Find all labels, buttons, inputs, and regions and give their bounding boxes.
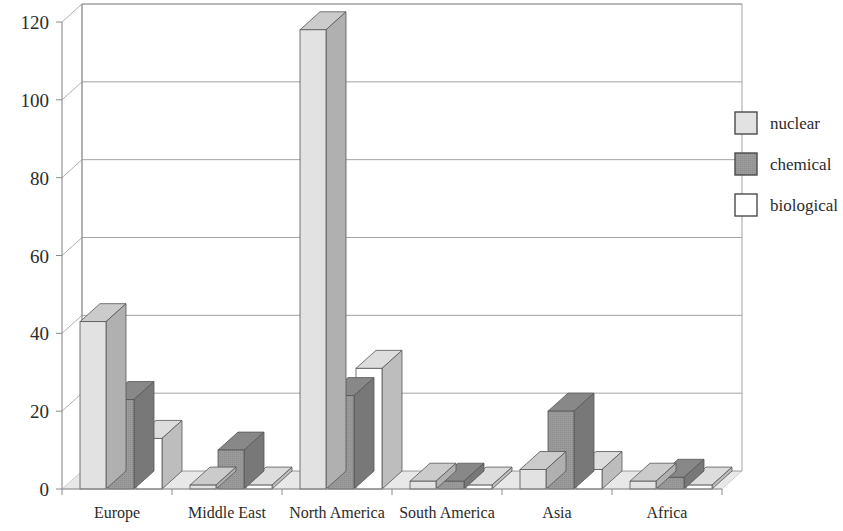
- legend-label-nuclear: nuclear: [770, 114, 820, 133]
- y-axis-tick-label: 100: [21, 90, 50, 111]
- gridline-depth-connector: [62, 82, 82, 100]
- bar-side-face: [106, 304, 126, 489]
- legend-item-nuclear[interactable]: nuclear: [735, 112, 820, 134]
- gridline-depth-connector: [62, 4, 82, 22]
- bar-front-face: [520, 470, 546, 489]
- legend-swatch-nuclear: [735, 112, 757, 134]
- bar-side-face: [354, 378, 374, 489]
- y-axis-tick-label: 20: [30, 401, 49, 422]
- chart-legend: nuclearchemicalbiological: [735, 112, 838, 216]
- bar-side-face: [326, 12, 346, 489]
- x-axis-category-label: Middle East: [188, 504, 266, 521]
- legend-item-biological[interactable]: biological: [735, 194, 838, 216]
- bar-side-face: [382, 350, 402, 489]
- bar-front-face: [190, 485, 216, 489]
- gridline-depth-connector: [62, 393, 82, 411]
- gridline-depth-connector: [62, 238, 82, 256]
- x-axis-category-label: Europe: [94, 504, 140, 522]
- y-axis-tick-labels: 020406080100120: [21, 12, 50, 500]
- bar-europe-nuclear[interactable]: [80, 304, 126, 489]
- legend-swatch-biological: [735, 194, 757, 216]
- y-axis-tick-label: 120: [21, 12, 50, 33]
- y-axis-tick-label: 0: [40, 479, 50, 500]
- bar-front-face: [80, 322, 106, 489]
- y-axis-tick-label: 60: [30, 246, 49, 267]
- bar-front-face: [630, 481, 656, 489]
- x-axis-category-labels: EuropeMiddle EastNorth AmericaSouth Amer…: [94, 504, 688, 522]
- y-axis-tick-label: 40: [30, 323, 49, 344]
- legend-label-chemical: chemical: [770, 155, 832, 174]
- bar-chart: 020406080100120 EuropeMiddle EastNorth A…: [0, 0, 843, 531]
- legend-item-chemical[interactable]: chemical: [735, 153, 832, 175]
- bar-front-face: [246, 485, 272, 489]
- legend-label-biological: biological: [770, 196, 838, 215]
- bar-north-america-nuclear[interactable]: [300, 12, 346, 489]
- x-axis: [62, 489, 722, 495]
- x-axis-category-label: North America: [289, 504, 385, 521]
- gridline-depth-connector: [62, 160, 82, 178]
- chart-container: 020406080100120 EuropeMiddle EastNorth A…: [0, 0, 843, 531]
- bar-front-face: [410, 481, 436, 489]
- gridline-depth-connector: [62, 315, 82, 333]
- bar-front-face: [300, 30, 326, 489]
- bar-side-face: [134, 381, 154, 489]
- x-axis-category-label: Asia: [542, 504, 571, 521]
- bar-front-face: [466, 485, 492, 489]
- bar-front-face: [686, 485, 712, 489]
- y-axis-tick-label: 80: [30, 168, 49, 189]
- x-axis-category-label: South America: [399, 504, 495, 521]
- y-axis: [56, 4, 82, 489]
- x-axis-category-label: Africa: [647, 504, 688, 521]
- legend-swatch-chemical: [735, 153, 757, 175]
